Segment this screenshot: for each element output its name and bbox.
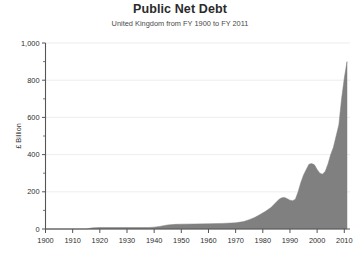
x-tick-label: 2010 (336, 236, 352, 245)
y-tick-label: 200 (27, 187, 39, 196)
x-tick-label: 1970 (227, 236, 243, 245)
x-tick-labels: 1900191019201930194019501960197019801990… (37, 236, 352, 245)
x-tick-label: 1990 (282, 236, 298, 245)
y-tick-labels: 02004006008001,000 (21, 39, 40, 234)
x-axis (46, 229, 351, 233)
y-tick-label: 0 (35, 225, 39, 234)
x-tick-label: 2000 (309, 236, 325, 245)
y-tick-label: 1,000 (21, 39, 40, 48)
x-tick-label: 1960 (200, 236, 216, 245)
x-tick-label: 1900 (37, 236, 53, 245)
y-axis-label: £ Billion (14, 123, 23, 149)
y-tick-label: 400 (27, 150, 39, 159)
x-tick-label: 1980 (255, 236, 271, 245)
x-tick-label: 1950 (173, 236, 189, 245)
y-axis-label-text: £ Billion (14, 123, 23, 149)
gridlines (46, 43, 351, 192)
x-tick-label: 1920 (92, 236, 108, 245)
chart-container: Public Net Debt United Kingdom from FY 1… (0, 0, 360, 257)
x-tick-label: 1930 (119, 236, 135, 245)
x-tick-label: 1940 (146, 236, 162, 245)
y-axis (42, 43, 46, 229)
x-tick-label: 1910 (64, 236, 80, 245)
chart-plot: 02004006008001,000 190019101920193019401… (0, 0, 360, 257)
area-series (46, 62, 348, 229)
area-path (46, 62, 348, 229)
y-tick-label: 800 (27, 76, 39, 85)
y-tick-label: 600 (27, 113, 39, 122)
